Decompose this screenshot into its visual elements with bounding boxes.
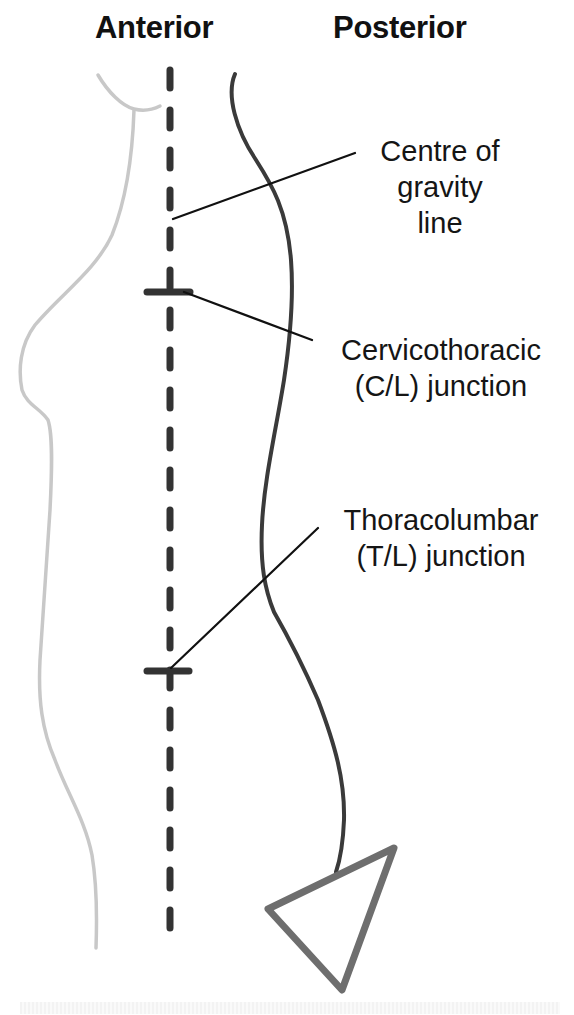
spine-curve [232, 74, 344, 872]
leader-lines [171, 153, 355, 668]
pelvis-triangle [268, 848, 394, 990]
thoracolumbar-label-line-1: Thoracolumbar [318, 502, 564, 538]
gravity-line-label-line-1: Centre of [355, 133, 525, 169]
gravity-line-label-line-2: gravity [355, 169, 525, 205]
cervicothoracic-label-line-2: (C/L) junction [318, 368, 564, 404]
spinal-alignment-diagram: Anterior Posterior Centre of gravity lin… [0, 0, 574, 1015]
thoracolumbar-label-line-2: (T/L) junction [318, 538, 564, 574]
thoracolumbar-leader-line [171, 528, 318, 668]
gravity-line-label-line-3: line [355, 205, 525, 241]
thoracolumbar-label: Thoracolumbar (T/L) junction [318, 502, 564, 574]
posterior-heading: Posterior [333, 10, 466, 46]
gravity-leader-line [173, 153, 355, 219]
cervicothoracic-label: Cervicothoracic (C/L) junction [318, 332, 564, 404]
body-outline [20, 75, 160, 948]
footer-band [20, 1002, 560, 1014]
cervicothoracic-label-line-1: Cervicothoracic [318, 332, 564, 368]
anterior-heading: Anterior [95, 10, 213, 46]
gravity-line-label: Centre of gravity line [355, 133, 525, 241]
